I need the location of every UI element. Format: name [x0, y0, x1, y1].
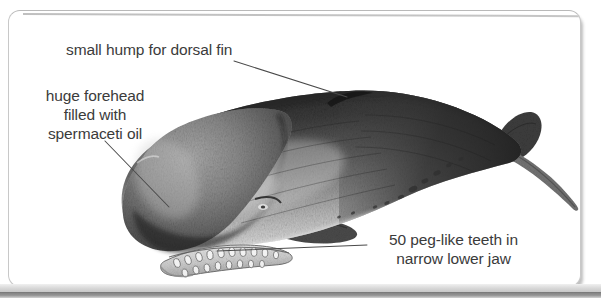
callout-teeth-line-2: narrow lower jaw [396, 250, 511, 267]
callout-dorsal-fin: small hump for dorsal fin [66, 40, 232, 59]
figure-stage: small hump for dorsal fin huge foreheadf… [0, 0, 601, 304]
callout-forehead: huge foreheadfilled withspermaceti oil [22, 86, 168, 143]
scan-band-dark [0, 292, 601, 298]
leader-line-dorsal [234, 61, 347, 97]
callout-teeth-line-1: 50 peg-like teeth in [389, 231, 518, 248]
callout-forehead-line-3: spermaceti oil [48, 125, 142, 142]
callout-forehead-line-2: filled with [64, 106, 127, 123]
callout-forehead-line-1: huge forehead [46, 87, 145, 104]
callout-teeth: 50 peg-like teeth innarrow lower jaw [366, 230, 541, 268]
